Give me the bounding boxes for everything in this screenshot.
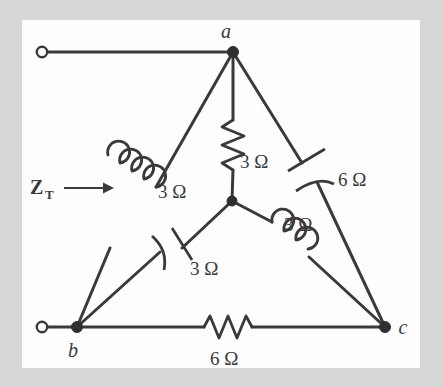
- node-label-a: a: [221, 20, 231, 42]
- node-dot-b: [72, 322, 83, 333]
- wire-capacitor-nb-to-b: [77, 252, 160, 327]
- label-capacitor-a-c: 6 Ω: [338, 169, 366, 190]
- impedance-arrow-icon: [64, 183, 114, 194]
- figure-root: a b c 3 Ω 3 Ω 6 Ω 3 Ω 3 Ω 6 Ω Z T: [0, 0, 443, 387]
- node-label-b: b: [68, 339, 78, 361]
- wire-a-to-inductor-ab: [156, 52, 233, 187]
- terminal-top-circle[interactable]: [37, 47, 47, 57]
- capacitor-n-b: [152, 228, 192, 270]
- node-label-c: c: [399, 316, 408, 338]
- node-dot-center: [227, 196, 237, 206]
- label-inductor-n-c: 3 Ω: [284, 214, 312, 235]
- wire-n-to-capacitor-nb: [182, 201, 232, 248]
- wire-capacitor-ac-to-c: [317, 182, 385, 327]
- wire-inductor-nc-to-c: [309, 257, 385, 327]
- inductor-a-b: [108, 141, 166, 187]
- impedance-subscript: T: [45, 187, 54, 202]
- node-dot-c: [380, 322, 391, 333]
- terminal-bottom-circle[interactable]: [37, 322, 47, 332]
- impedance-label: Z: [30, 176, 43, 198]
- label-resistor-b-c: 6 Ω: [210, 348, 238, 369]
- wire-n-to-inductor-nc: [232, 201, 272, 222]
- circuit-diagram: a b c 3 Ω 3 Ω 6 Ω 3 Ω 3 Ω 6 Ω Z T: [0, 0, 443, 387]
- node-dot-a: [228, 47, 239, 58]
- wire-inductor-ab-to-b: [77, 248, 110, 327]
- wire-a-to-capacitor-ac: [233, 52, 302, 163]
- capacitor-a-c: [288, 149, 334, 191]
- label-inductor-a-b: 3 Ω: [158, 181, 186, 202]
- label-capacitor-n-b: 3 Ω: [190, 258, 218, 279]
- resistor-b-c: [204, 316, 252, 338]
- label-resistor-a-n: 3 Ω: [240, 151, 268, 172]
